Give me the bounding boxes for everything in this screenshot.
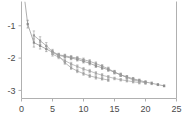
data-point <box>163 85 165 87</box>
data-point <box>64 55 66 57</box>
data-point <box>70 63 72 65</box>
x-tick-label: 20 <box>140 104 150 114</box>
data-point <box>107 68 109 70</box>
data-point <box>70 67 72 69</box>
data-point <box>33 41 35 43</box>
leading-slope-line <box>25 2 28 25</box>
data-point <box>76 65 78 67</box>
data-point <box>95 72 97 74</box>
data-series-layer <box>25 2 165 87</box>
x-tick-label: 0 <box>19 104 24 114</box>
data-point <box>39 40 41 42</box>
data-point <box>126 80 128 82</box>
data-point <box>101 78 103 80</box>
data-point <box>82 68 84 70</box>
series-line <box>25 2 28 25</box>
data-point <box>126 76 128 78</box>
data-point <box>76 57 78 59</box>
x-axis-tick-labels: 0510152025 <box>19 104 182 114</box>
data-point <box>101 74 103 76</box>
y-axis-tick-labels: -1-2-3 <box>7 21 15 96</box>
data-point <box>95 62 97 64</box>
data-point <box>39 45 41 47</box>
data-point <box>95 76 97 78</box>
data-point <box>132 81 134 83</box>
chart-container: 0510152025 -1-2-3 <box>0 0 188 123</box>
data-point <box>45 45 47 47</box>
data-point <box>33 34 35 36</box>
data-point <box>120 79 122 81</box>
data-point <box>120 74 122 76</box>
x-tick-label: 15 <box>109 104 119 114</box>
y-tick-label: -2 <box>7 53 15 63</box>
y-tick-label: -1 <box>7 21 15 31</box>
line-chart: 0510152025 -1-2-3 <box>0 0 188 123</box>
data-point <box>107 79 109 81</box>
data-point <box>144 82 146 84</box>
data-point <box>157 83 159 85</box>
data-point <box>89 70 91 72</box>
data-point <box>107 76 109 78</box>
data-point <box>82 73 84 75</box>
data-point <box>51 53 53 55</box>
data-point <box>70 56 72 58</box>
x-tick-label: 5 <box>50 104 55 114</box>
data-point <box>113 77 115 79</box>
data-point <box>64 62 66 64</box>
x-tick-label: 25 <box>171 104 181 114</box>
y-tick-label: -3 <box>7 86 15 96</box>
data-point <box>101 65 103 67</box>
x-tick-label: 10 <box>78 104 88 114</box>
data-point <box>82 59 84 61</box>
data-point <box>151 82 153 84</box>
data-point <box>89 60 91 62</box>
data-point <box>89 75 91 77</box>
data-point <box>113 71 115 73</box>
data-point <box>58 55 60 57</box>
data-point <box>76 70 78 72</box>
data-point <box>138 82 140 84</box>
